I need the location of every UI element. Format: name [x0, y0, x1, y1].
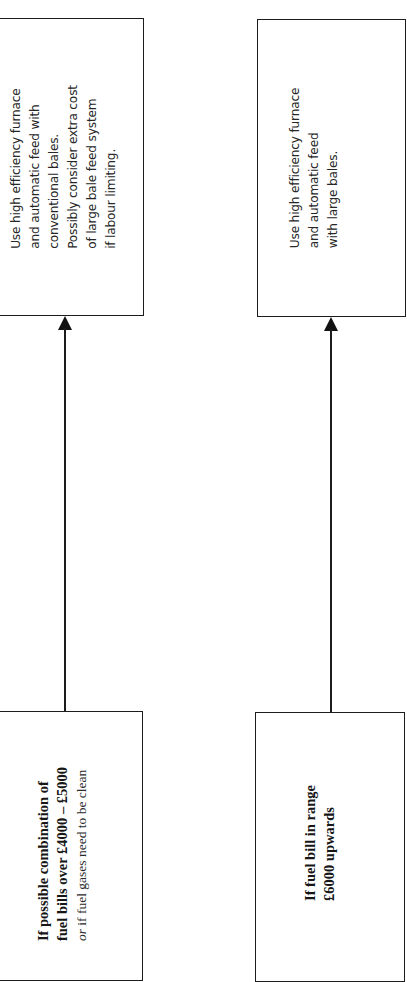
text-line: Use high efficiency furnace: [7, 85, 26, 249]
text-line: £6000 upwards: [320, 785, 339, 901]
text-line: with large bales.: [323, 88, 342, 248]
text-line: if labour limiting.: [102, 85, 121, 249]
alt-text: if fuel gases need to be clean: [73, 770, 88, 929]
text-line: fuel bills over £4000 – £5000: [52, 767, 71, 941]
text-line: If fuel bill in range: [301, 785, 320, 901]
condition-text-fuel-4000-5000: If possible combination of fuel bills ov…: [33, 767, 90, 941]
text-line: of large bale feed system: [83, 85, 102, 249]
text-line: Use high efficiency furnace: [285, 88, 304, 248]
alt-prefix: or: [73, 929, 88, 941]
condition-box-fuel-6000-upwards: If fuel bill in range £6000 upwards: [255, 712, 405, 982]
text-line-alternative: or if fuel gases need to be clean: [71, 767, 90, 941]
text-line: Possibly consider extra cost: [64, 85, 83, 249]
text-line: If possible combination of: [33, 767, 52, 941]
condition-text-fuel-6000-upwards: If fuel bill in range £6000 upwards: [301, 785, 339, 901]
recommendation-text-conventional-bales: Use high efficiency furnace and automati…: [7, 85, 121, 249]
text-line: and automatic feed: [304, 88, 323, 248]
connector-line-right: [330, 329, 332, 713]
recommendation-box-conventional-bales: Use high efficiency furnace and automati…: [0, 18, 144, 316]
recommendation-box-large-bales: Use high efficiency furnace and automati…: [257, 19, 406, 317]
text-line: and automatic feed with: [26, 85, 45, 249]
recommendation-text-large-bales: Use high efficiency furnace and automati…: [285, 88, 342, 248]
text-line: conventional bales.: [45, 85, 64, 249]
connector-line-left: [64, 328, 66, 712]
condition-box-fuel-4000-5000: If possible combination of fuel bills ov…: [0, 711, 143, 981]
